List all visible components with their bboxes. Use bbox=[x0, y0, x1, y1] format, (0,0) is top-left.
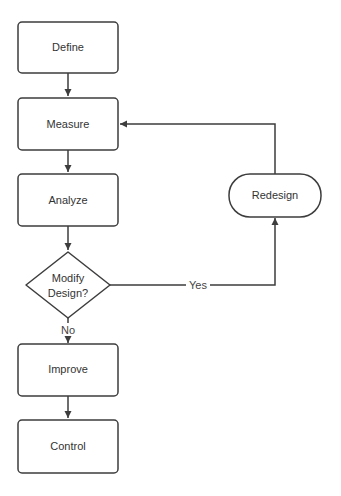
node-define[interactable]: Define bbox=[18, 22, 118, 73]
node-define-label: Define bbox=[52, 41, 84, 53]
edge-modify-redesign bbox=[110, 218, 275, 285]
node-improve-label: Improve bbox=[48, 363, 88, 375]
flowchart-canvas: Define Measure Analyze Modify Design? Im… bbox=[0, 0, 341, 496]
node-modify-label-line2: Design? bbox=[48, 287, 88, 299]
edge-redesign-measure bbox=[120, 124, 275, 174]
node-measure[interactable]: Measure bbox=[18, 98, 118, 150]
node-redesign-label: Redesign bbox=[252, 189, 298, 201]
edge-label-yes: Yes bbox=[189, 279, 207, 291]
node-redesign[interactable]: Redesign bbox=[229, 174, 321, 217]
edge-label-no: No bbox=[61, 324, 75, 336]
node-analyze-label: Analyze bbox=[48, 194, 87, 206]
node-improve[interactable]: Improve bbox=[18, 344, 118, 396]
node-measure-label: Measure bbox=[47, 118, 90, 130]
node-analyze[interactable]: Analyze bbox=[18, 174, 118, 226]
node-modify-design-decision[interactable]: Modify Design? bbox=[26, 252, 110, 318]
node-modify-label-line1: Modify bbox=[52, 272, 85, 284]
node-control-label: Control bbox=[50, 440, 85, 452]
node-control[interactable]: Control bbox=[18, 420, 118, 473]
